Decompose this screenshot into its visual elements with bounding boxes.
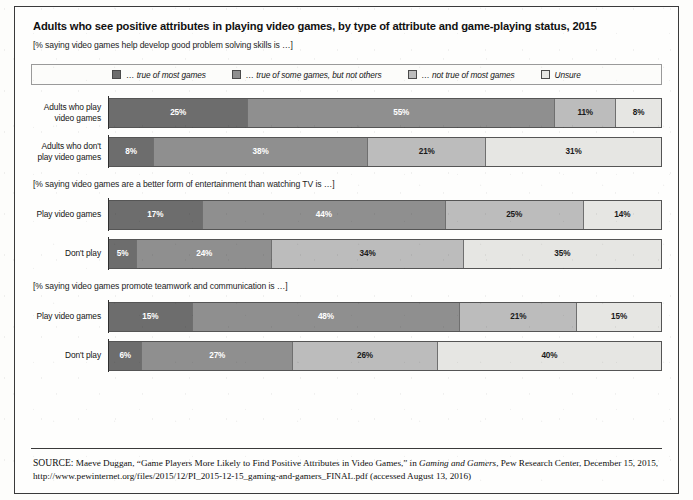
legend-item[interactable]: Unsure bbox=[541, 70, 581, 80]
bar-segment[interactable]: 15% bbox=[109, 303, 193, 331]
bar-segment[interactable]: 25% bbox=[446, 201, 584, 229]
figure-frame: Adults who see positive attributes in pl… bbox=[14, 6, 679, 494]
stacked-bar: 5%24%34%35% bbox=[109, 239, 662, 269]
row-category-label: Adults who playvideo games bbox=[31, 102, 108, 123]
bar-segment-value: 17% bbox=[147, 210, 163, 219]
bar-segment[interactable]: 21% bbox=[368, 138, 486, 166]
bar-segment-value: 21% bbox=[510, 312, 526, 321]
legend-item[interactable]: … true of some games, but not others bbox=[232, 70, 382, 80]
page-title: Adults who see positive attributes in pl… bbox=[33, 19, 662, 33]
legend-item[interactable]: … not true of most games bbox=[408, 70, 515, 80]
bar-segment-value: 6% bbox=[119, 351, 131, 360]
source-divider bbox=[31, 448, 662, 449]
bar-segment[interactable]: 38% bbox=[154, 138, 368, 166]
bar-segment[interactable]: 5% bbox=[109, 240, 137, 268]
chart-row: Adults who don'tplay video games8%38%21%… bbox=[31, 135, 662, 168]
bar-segment[interactable]: 8% bbox=[616, 99, 661, 127]
panel-note: [% saying video games promote teamwork a… bbox=[33, 281, 662, 291]
bar-segment-value: 11% bbox=[577, 108, 593, 117]
legend-item-label: … not true of most games bbox=[422, 70, 515, 80]
chart-row: Play video games15%48%21%15% bbox=[31, 300, 662, 333]
legend-item-label: … true of some games, but not others bbox=[246, 70, 382, 80]
legend-item-label: Unsure bbox=[555, 70, 581, 80]
bar-segment-value: 8% bbox=[633, 108, 645, 117]
stacked-bar: 8%38%21%31% bbox=[109, 137, 662, 167]
chart-panel: [% saying video games promote teamwork a… bbox=[31, 281, 662, 372]
bar-segment-value: 26% bbox=[357, 351, 373, 360]
bar-segment[interactable]: 25% bbox=[109, 99, 248, 127]
bar-segment[interactable]: 15% bbox=[577, 303, 661, 331]
bar-segment-value: 25% bbox=[170, 108, 186, 117]
bar-segment[interactable]: 55% bbox=[248, 99, 555, 127]
bar-segment-value: 48% bbox=[318, 312, 334, 321]
row-label-line: Play video games bbox=[31, 311, 101, 322]
bar-segment[interactable]: 31% bbox=[486, 138, 661, 166]
bar-segment-value: 8% bbox=[125, 147, 137, 156]
chart-page: Adults who see positive attributes in pl… bbox=[0, 0, 693, 500]
panel-note: [% saying video games are a better form … bbox=[33, 179, 662, 189]
bar-segment-value: 34% bbox=[360, 249, 376, 258]
figure-content: Adults who see positive attributes in pl… bbox=[31, 15, 662, 485]
bar-segment[interactable]: 8% bbox=[109, 138, 154, 166]
chart-panel: [% saying video games are a better form … bbox=[31, 179, 662, 270]
panel-rows: Play video games15%48%21%15%Don't play6%… bbox=[31, 300, 662, 372]
bar-segment[interactable]: 35% bbox=[464, 240, 661, 268]
bar-segment[interactable]: 14% bbox=[584, 201, 661, 229]
legend-swatch-icon bbox=[541, 70, 550, 79]
source-text-1: Maeve Duggan, “Game Players More Likely … bbox=[74, 458, 420, 468]
chart-panel: Adults who playvideo games25%55%11%8%Adu… bbox=[31, 96, 662, 168]
bar-segment[interactable]: 26% bbox=[293, 342, 438, 370]
bar-segment-value: 24% bbox=[196, 249, 212, 258]
legend-swatch-icon bbox=[112, 70, 121, 79]
source-prefix: SOURCE: bbox=[33, 457, 74, 468]
chart-row: Don't play6%27%26%40% bbox=[31, 339, 662, 372]
panel-rows: Adults who playvideo games25%55%11%8%Adu… bbox=[31, 96, 662, 168]
bar-segment-value: 25% bbox=[506, 210, 522, 219]
bar-segment-value: 31% bbox=[566, 147, 582, 156]
chart-row: Adults who playvideo games25%55%11%8% bbox=[31, 96, 662, 129]
row-label-line: Adults who play bbox=[31, 102, 101, 113]
legend-swatch-icon bbox=[408, 70, 417, 79]
chart-sections: Adults who playvideo games25%55%11%8%Adu… bbox=[31, 96, 662, 372]
bar-segment[interactable]: 17% bbox=[109, 201, 203, 229]
chart-subtitle: [% saying video games help develop good … bbox=[33, 40, 662, 50]
row-category-label: Don't play bbox=[31, 248, 108, 259]
bar-segment-value: 15% bbox=[611, 312, 627, 321]
row-category-label: Adults who don'tplay video games bbox=[31, 141, 108, 162]
stacked-bar: 25%55%11%8% bbox=[109, 98, 662, 128]
source-note: SOURCE: Maeve Duggan, “Game Players More… bbox=[33, 457, 660, 482]
row-label-line: Adults who don't bbox=[31, 141, 101, 152]
bar-segment-value: 44% bbox=[316, 210, 332, 219]
chart-legend: … true of most games… true of some games… bbox=[31, 64, 662, 85]
bar-segment[interactable]: 11% bbox=[555, 99, 616, 127]
bar-segment[interactable]: 34% bbox=[272, 240, 464, 268]
panel-rows: Play video games17%44%25%14%Don't play5%… bbox=[31, 198, 662, 270]
source-publication: Gaming and Gamers bbox=[419, 458, 496, 468]
legend-swatch-icon bbox=[232, 70, 241, 79]
bar-segment[interactable]: 40% bbox=[438, 342, 661, 370]
bar-segment-value: 14% bbox=[614, 210, 630, 219]
stacked-bar: 17%44%25%14% bbox=[109, 200, 662, 230]
stacked-bar: 15%48%21%15% bbox=[109, 302, 662, 332]
legend-item-label: … true of most games bbox=[126, 70, 206, 80]
row-label-line: Play video games bbox=[31, 209, 101, 220]
row-category-label: Play video games bbox=[31, 311, 108, 322]
bar-segment[interactable]: 48% bbox=[193, 303, 461, 331]
row-category-label: Play video games bbox=[31, 209, 108, 220]
bar-segment-value: 35% bbox=[554, 249, 570, 258]
bar-segment-value: 55% bbox=[393, 108, 409, 117]
bar-segment[interactable]: 21% bbox=[460, 303, 577, 331]
bar-segment[interactable]: 44% bbox=[203, 201, 446, 229]
bar-segment[interactable]: 6% bbox=[109, 342, 142, 370]
bar-segment-value: 27% bbox=[209, 351, 225, 360]
row-label-line: Don't play bbox=[31, 350, 101, 361]
bar-segment-value: 21% bbox=[419, 147, 435, 156]
bar-segment[interactable]: 27% bbox=[142, 342, 293, 370]
row-label-line: Don't play bbox=[31, 248, 101, 259]
row-label-line: play video games bbox=[31, 152, 101, 163]
row-label-line: video games bbox=[31, 113, 101, 124]
bar-segment[interactable]: 24% bbox=[137, 240, 272, 268]
legend-item[interactable]: … true of most games bbox=[112, 70, 206, 80]
row-category-label: Don't play bbox=[31, 350, 108, 361]
bar-segment-value: 38% bbox=[253, 147, 269, 156]
